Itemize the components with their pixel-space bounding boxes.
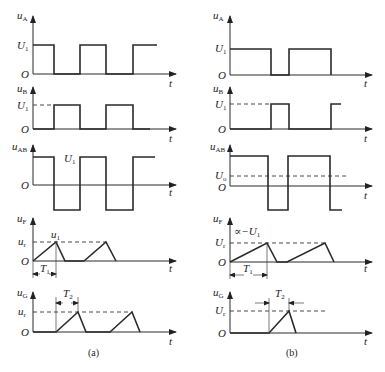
caption-b: (b) — [286, 347, 298, 359]
plot-a-uF: uF ur u1 O T1 t — [17, 212, 176, 278]
svg-text:uAB: uAB — [210, 140, 226, 154]
svg-text:t: t — [169, 335, 173, 347]
plot-b-uB: uB U1 O t — [213, 82, 372, 144]
svg-text:O: O — [218, 181, 226, 193]
svg-text:u1: u1 — [51, 228, 61, 242]
plot-b-uG: uG T2 Ur O t — [213, 286, 372, 347]
svg-text:ur: ur — [18, 305, 27, 319]
svg-text:t: t — [364, 132, 368, 144]
svg-text:t: t — [364, 335, 368, 347]
svg-text:t: t — [364, 77, 368, 89]
svg-text:uB: uB — [213, 82, 224, 96]
svg-text:U1: U1 — [64, 152, 76, 166]
svg-text:U1: U1 — [215, 98, 227, 112]
svg-text:O: O — [218, 256, 226, 268]
plot-b-uAB: uAB Uo O t — [210, 140, 372, 210]
panel-a: uA U1 O t uB U1 O t uAB U1 O t — [12, 9, 176, 359]
svg-text:ur: ur — [18, 235, 27, 249]
plot-a-uG: uG T2 ur O t — [17, 286, 176, 347]
timing-diagram-figure: uA U1 O t uB U1 O t uAB U1 O t — [0, 0, 385, 372]
svg-text:T1: T1 — [243, 262, 253, 276]
svg-text:uF: uF — [213, 212, 223, 226]
plot-a-uAB: uAB U1 O t — [12, 140, 176, 210]
svg-text:Ur: Ur — [215, 304, 226, 318]
svg-text:uG: uG — [17, 286, 28, 300]
svg-text:t: t — [169, 186, 173, 198]
svg-text:t: t — [169, 262, 173, 274]
svg-text:O: O — [21, 255, 29, 267]
svg-text:O: O — [218, 69, 226, 81]
svg-text:O: O — [21, 179, 29, 191]
svg-text:O: O — [21, 123, 29, 135]
svg-text:O: O — [21, 68, 29, 80]
svg-text:t: t — [169, 132, 173, 144]
svg-text:O: O — [218, 327, 226, 339]
svg-text:uF: uF — [17, 212, 27, 226]
svg-text:∝−U1: ∝−U1 — [234, 225, 261, 239]
caption-a: (a) — [88, 347, 99, 359]
svg-text:O: O — [218, 123, 226, 135]
svg-text:uG: uG — [213, 286, 224, 300]
svg-text:U1: U1 — [17, 39, 29, 53]
svg-text:uB: uB — [17, 82, 28, 96]
svg-text:U1: U1 — [17, 99, 29, 113]
svg-text:T2: T2 — [63, 287, 73, 301]
panel-b: uA U1 O t uB U1 O t uAB Uo O t — [210, 9, 372, 359]
svg-text:uAB: uAB — [12, 140, 28, 154]
svg-text:O: O — [21, 326, 29, 338]
svg-text:uA: uA — [213, 9, 224, 23]
svg-text:U1: U1 — [215, 42, 227, 56]
plot-b-uA: uA U1 O t — [213, 9, 372, 89]
svg-text:t: t — [169, 77, 173, 89]
svg-text:T1: T1 — [40, 262, 50, 276]
svg-text:T2: T2 — [275, 287, 285, 301]
plot-a-uA: uA U1 O t — [17, 9, 176, 89]
ylabel-a-uA: uA — [17, 9, 28, 23]
plot-b-uF: uF ∝−U1 Ur O T1 t — [213, 212, 372, 279]
svg-text:t: t — [364, 262, 368, 274]
svg-text:t: t — [364, 189, 368, 201]
svg-text:Ur: Ur — [215, 236, 226, 250]
plot-a-uB: uB U1 O t — [17, 82, 176, 144]
